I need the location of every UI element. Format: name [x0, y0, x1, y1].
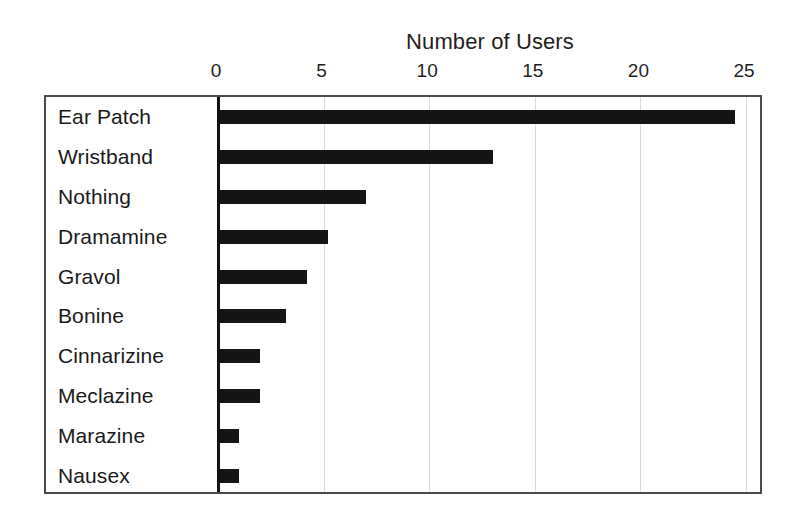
category-row: Marazine	[46, 416, 760, 456]
category-row: Nausex	[46, 456, 760, 496]
category-label: Ear Patch	[58, 105, 151, 129]
x-tick-label-15: 15	[522, 60, 543, 82]
category-label: Meclazine	[58, 384, 153, 408]
bar	[218, 429, 239, 443]
category-label: Marazine	[58, 424, 145, 448]
category-row: Bonine	[46, 297, 760, 337]
bar	[218, 309, 286, 323]
category-label: Gravol	[58, 265, 120, 289]
category-label: Dramamine	[58, 225, 167, 249]
chart-title: Number of Users	[300, 29, 680, 55]
category-row: Cinnarizine	[46, 336, 760, 376]
category-label: Nausex	[58, 464, 130, 488]
x-tick-label-10: 10	[417, 60, 438, 82]
bar	[218, 190, 366, 204]
category-row: Ear Patch	[46, 97, 760, 137]
category-row: Wristband	[46, 137, 760, 177]
bar	[218, 349, 260, 363]
plot-frame: Ear PatchWristbandNothingDramamineGravol…	[44, 95, 762, 494]
category-label: Wristband	[58, 145, 153, 169]
bar	[218, 230, 328, 244]
y-axis-line	[217, 97, 220, 492]
bar	[218, 469, 239, 483]
bar-chart: Number of Users 0510152025 Ear PatchWris…	[0, 0, 791, 514]
plot-area: Ear PatchWristbandNothingDramamineGravol…	[46, 97, 760, 492]
category-label: Cinnarizine	[58, 344, 164, 368]
category-row: Meclazine	[46, 376, 760, 416]
category-row: Nothing	[46, 177, 760, 217]
bar	[218, 389, 260, 403]
category-label: Bonine	[58, 304, 124, 328]
x-tick-label-20: 20	[628, 60, 649, 82]
x-tick-label-5: 5	[316, 60, 327, 82]
category-row: Dramamine	[46, 217, 760, 257]
x-tick-label-0: 0	[211, 60, 222, 82]
x-axis-tick-labels: 0510152025	[0, 60, 791, 86]
bar	[218, 110, 735, 124]
bar	[218, 270, 307, 284]
bar	[218, 150, 493, 164]
x-tick-label-25: 25	[733, 60, 754, 82]
category-row: Gravol	[46, 257, 760, 297]
category-label: Nothing	[58, 185, 131, 209]
